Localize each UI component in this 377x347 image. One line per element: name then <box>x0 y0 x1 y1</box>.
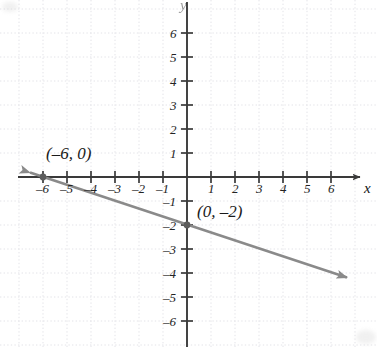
scan-smudge <box>2 2 18 12</box>
point-label-x-intercept: (–6, 0) <box>46 145 91 162</box>
y-tick-label--3: –3 <box>163 243 176 256</box>
coordinate-plane-svg <box>0 0 377 347</box>
point-marker-x-intercept <box>40 174 47 181</box>
y-tick-label-2: 2 <box>170 123 177 136</box>
x-tick-label-4: 4 <box>280 182 287 195</box>
x-tick-label-2: 2 <box>232 182 239 195</box>
y-tick-label--1: –1 <box>163 195 176 208</box>
x-tick-label-5: 5 <box>304 182 311 195</box>
x-axis-label: x <box>364 181 371 196</box>
y-tick-label-5: 5 <box>170 51 177 64</box>
graph-figure: –6 –5 –4 –3 –2 –1 1 2 3 4 5 6 6 5 4 3 2 … <box>0 0 377 347</box>
x-tick-label--5: –5 <box>60 182 73 195</box>
y-tick-label-3: 3 <box>170 99 177 112</box>
y-tick-label-1: 1 <box>170 147 177 160</box>
x-tick-label--4: –4 <box>84 182 97 195</box>
point-marker-y-intercept <box>184 222 191 229</box>
y-tick-label--6: –6 <box>163 315 176 328</box>
x-tick-label--6: –6 <box>36 182 49 195</box>
point-label-y-intercept: (0, –2) <box>197 203 242 220</box>
y-tick-label-4: 4 <box>170 75 177 88</box>
y-tick-label-6: 6 <box>170 27 177 40</box>
y-tick-label--4: –4 <box>163 267 176 280</box>
scan-smudge <box>356 330 376 344</box>
y-tick-label--5: –5 <box>163 291 176 304</box>
y-tick-label--2: –2 <box>163 219 176 232</box>
x-tick-label-1: 1 <box>208 182 215 195</box>
y-axis-label: y <box>180 0 187 13</box>
x-tick-label-6: 6 <box>328 182 335 195</box>
x-tick-label--3: –3 <box>108 182 121 195</box>
plot-background <box>0 0 377 347</box>
x-tick-label-3: 3 <box>256 182 263 195</box>
x-tick-label--2: –2 <box>132 182 145 195</box>
